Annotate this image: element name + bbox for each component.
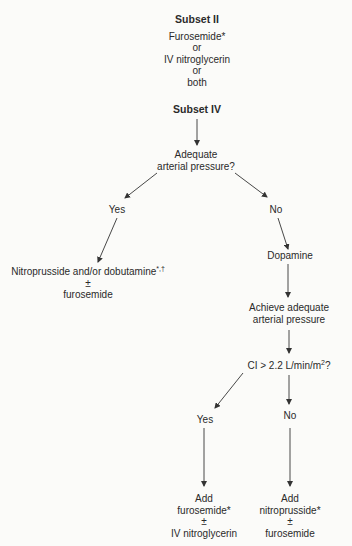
arrow-decision-1-to-yes (125, 173, 157, 198)
yes-2-treatment: Add furosemide* ± IV nitroglycerin (171, 493, 237, 539)
achieve-line: Achieve adequate (249, 302, 329, 314)
arrow-yes-to-treatment (98, 218, 117, 262)
subset-ii-title: Subset II (164, 14, 230, 26)
branch-yes-2: Yes (197, 414, 213, 426)
decision-adequate-pressure: Adequate arterial pressure? (157, 149, 235, 172)
yes-1-treatment: Nitroprusside and/or dobutamine*,† ± fur… (11, 266, 165, 301)
arrow-decision-1-to-no (235, 173, 267, 197)
no-2-line: nitroprusside* (259, 505, 320, 517)
decision-cardiac-index: CI > 2.2 L/min/m2? (247, 360, 330, 372)
yes-2-line: furosemide* (171, 505, 237, 517)
branch-no-2: No (284, 410, 297, 422)
no-2-treatment: Add nitroprusside* ± furosemide (259, 493, 320, 539)
no-2-line: Add (259, 493, 320, 505)
achieve-pressure-step: Achieve adequate arterial pressure (249, 302, 329, 325)
subset-ii-block: Subset II Furosemide* or IV nitroglyceri… (164, 14, 230, 88)
no-2-line: furosemide (259, 528, 320, 540)
no-2-line: ± (259, 516, 320, 528)
yes-1-treatment-line3: furosemide (11, 289, 165, 301)
subset-ii-line: or (164, 42, 230, 54)
yes-2-line: ± (171, 516, 237, 528)
yes-1-treatment-line1: Nitroprusside and/or dobutamine (11, 266, 156, 277)
subset-ii-line: or (164, 65, 230, 77)
yes-2-line: Add (171, 493, 237, 505)
subset-ii-line: Furosemide* (164, 31, 230, 43)
decision-1-line: arterial pressure? (157, 161, 235, 173)
decision-1-line: Adequate (157, 149, 235, 161)
achieve-line: arterial pressure (249, 314, 329, 326)
arrow-no-to-dopamine (278, 218, 288, 249)
yes-2-line: IV nitroglycerin (171, 528, 237, 540)
decision-2-suffix: ? (325, 360, 331, 371)
decision-2-label: CI > 2.2 L/min/m (247, 360, 321, 371)
subset-ii-line: IV nitroglycerin (164, 54, 230, 66)
branch-yes-1: Yes (109, 204, 125, 216)
arrow-decision-2-to-yes (215, 373, 243, 408)
branch-no-1: No (270, 204, 283, 216)
subset-ii-line: both (164, 77, 230, 89)
footnote-marks: *,† (156, 265, 165, 272)
plus-minus: ± (11, 278, 165, 290)
subset-iv-title: Subset IV (173, 104, 221, 116)
dopamine-step: Dopamine (267, 250, 313, 262)
